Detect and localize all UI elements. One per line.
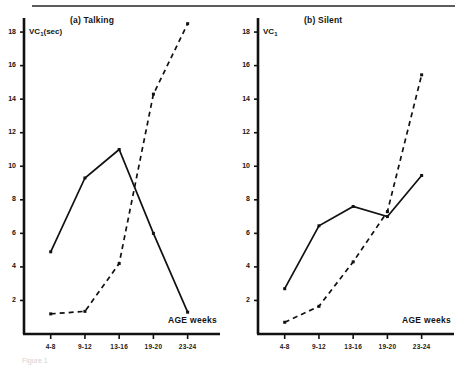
panel-a-title: (a) Talking xyxy=(70,15,114,25)
x-tick-label: 4-8 xyxy=(34,343,68,350)
y-tick-label: 6 xyxy=(236,229,250,236)
chart-panel-b: (b) Silent VC1 AGE weeks 246810121416184… xyxy=(234,0,468,368)
y-tick-label: 10 xyxy=(2,162,16,169)
chart-panel-a: (a) Talking VC1(sec) AGE weeks 246810121… xyxy=(0,0,234,368)
x-tick-label: 4-8 xyxy=(268,343,302,350)
y-label-main: VC xyxy=(263,27,274,36)
y-tick-label: 12 xyxy=(2,128,16,135)
y-tick-label: 14 xyxy=(2,95,16,102)
panel-b-plot xyxy=(234,0,468,368)
y-tick-label: 2 xyxy=(2,296,16,303)
x-tick-label: 19-20 xyxy=(370,343,404,350)
panel-a-x-axis-label: AGE weeks xyxy=(168,315,217,325)
y-tick-label: 16 xyxy=(2,61,16,68)
panel-b-title: (b) Silent xyxy=(304,15,342,25)
y-tick-label: 4 xyxy=(2,262,16,269)
x-tick-label: 19-20 xyxy=(136,343,170,350)
y-tick-label: 14 xyxy=(236,95,250,102)
y-label-subscript: 1 xyxy=(274,31,277,37)
y-tick-label: 8 xyxy=(2,195,16,202)
figure-root: (a) Talking VC1(sec) AGE weeks 246810121… xyxy=(0,0,468,368)
y-tick-label: 12 xyxy=(236,128,250,135)
x-tick-label: 13-16 xyxy=(336,343,370,350)
y-label-main: VC xyxy=(29,27,40,36)
panel-a-y-axis-label: VC1(sec) xyxy=(29,27,62,37)
x-tick-label: 13-16 xyxy=(102,343,136,350)
y-tick-label: 16 xyxy=(236,61,250,68)
y-tick-label: 18 xyxy=(236,28,250,35)
x-tick-label: 23-24 xyxy=(405,343,439,350)
y-tick-label: 10 xyxy=(236,162,250,169)
panel-b-y-axis-label: VC1 xyxy=(263,27,277,37)
x-tick-label: 23-24 xyxy=(171,343,205,350)
y-tick-label: 4 xyxy=(236,262,250,269)
x-tick-label: 9-12 xyxy=(68,343,102,350)
y-label-unit: (sec) xyxy=(43,27,62,36)
panel-a-plot xyxy=(0,0,234,368)
panel-b-x-axis-label: AGE weeks xyxy=(402,315,451,325)
y-tick-label: 6 xyxy=(2,229,16,236)
y-tick-label: 8 xyxy=(236,195,250,202)
y-tick-label: 2 xyxy=(236,296,250,303)
figure-caption: Figure 1 xyxy=(22,357,48,364)
x-tick-label: 9-12 xyxy=(302,343,336,350)
y-tick-label: 18 xyxy=(2,28,16,35)
